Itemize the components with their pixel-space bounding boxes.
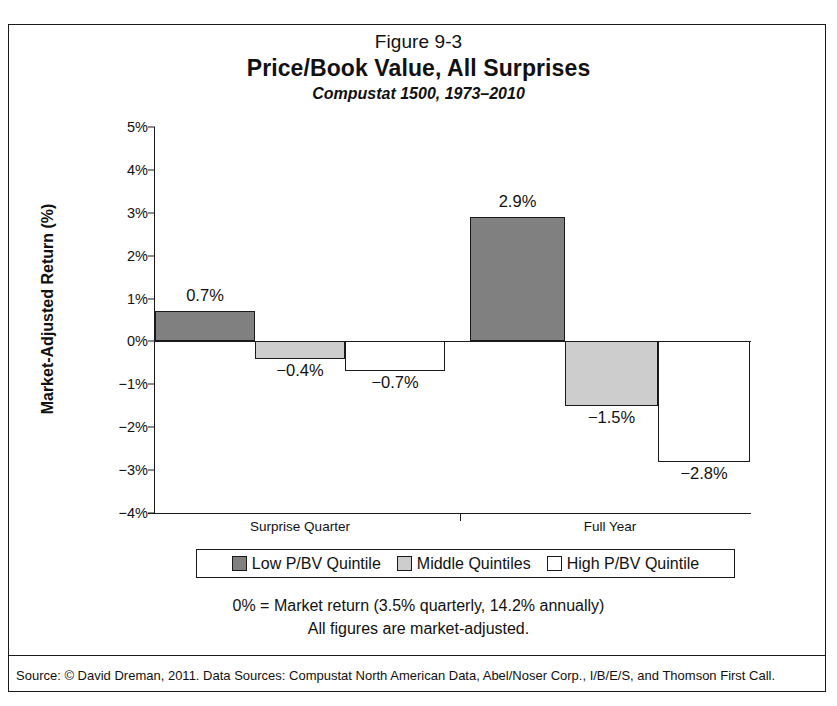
- y-tick-mark: [148, 427, 155, 428]
- y-tick-mark: [148, 384, 155, 385]
- y-tick-mark: [148, 470, 155, 471]
- y-tick-label: 0%: [127, 333, 148, 349]
- y-tick-label: 3%: [127, 205, 148, 221]
- bar-value-label: −0.7%: [371, 373, 418, 392]
- bar: [565, 341, 658, 405]
- x-axis-line: [148, 513, 751, 514]
- figure-title: Price/Book Value, All Surprises: [0, 55, 837, 82]
- y-tick-label: −1%: [119, 376, 148, 392]
- y-tick-label: 5%: [127, 119, 148, 135]
- bar-value-label: −0.4%: [276, 361, 323, 380]
- y-tick-mark: [148, 255, 155, 256]
- source-note: Source: © David Dreman, 2011. Data Sourc…: [16, 668, 821, 683]
- plot-area: 5%4%3%2%1%0%−1%−2%−3%−4% 0.7%−0.4%−0.7%2…: [155, 127, 750, 513]
- bar-value-label: 2.9%: [499, 192, 537, 211]
- figure-number: Figure 9-3: [0, 31, 837, 53]
- source-divider: [8, 655, 826, 656]
- legend-swatch: [547, 556, 562, 571]
- y-tick-mark: [148, 298, 155, 299]
- y-tick-label: 2%: [127, 248, 148, 264]
- bar: [470, 217, 565, 341]
- bar: [255, 341, 345, 358]
- legend-item: High P/BV Quintile: [547, 555, 700, 573]
- bar: [658, 341, 750, 461]
- y-tick-mark: [148, 212, 155, 213]
- bar-value-label: −2.8%: [680, 464, 727, 483]
- bar-value-label: −1.5%: [588, 408, 635, 427]
- y-tick-label: −3%: [119, 462, 148, 478]
- y-tick-label: −2%: [119, 419, 148, 435]
- y-tick-mark: [148, 127, 155, 128]
- bar-value-label: 0.7%: [186, 286, 224, 305]
- legend-swatch: [397, 556, 412, 571]
- bar: [155, 311, 255, 341]
- y-tick-mark: [148, 341, 155, 342]
- y-axis-title: Market-Adjusted Return (%): [39, 169, 57, 449]
- legend-label: Middle Quintiles: [417, 555, 531, 573]
- legend-swatch: [232, 556, 247, 571]
- chart-legend: Low P/BV QuintileMiddle QuintilesHigh P/…: [196, 549, 735, 578]
- x-category-label: Surprise Quarter: [250, 519, 350, 534]
- legend-label: High P/BV Quintile: [567, 555, 700, 573]
- y-tick-label: 4%: [127, 162, 148, 178]
- y-tick-mark: [148, 169, 155, 170]
- y-tick-label: −4%: [119, 505, 148, 521]
- y-tick-label: 1%: [127, 291, 148, 307]
- y-tick-mark: [148, 513, 155, 514]
- category-separator-tick: [460, 513, 461, 521]
- legend-item: Low P/BV Quintile: [232, 555, 381, 573]
- bar: [345, 341, 445, 371]
- x-category-label: Full Year: [584, 519, 637, 534]
- legend-item: Middle Quintiles: [397, 555, 531, 573]
- note-market-return: 0% = Market return (3.5% quarterly, 14.2…: [0, 597, 837, 615]
- figure-page: Figure 9-3 Price/Book Value, All Surpris…: [0, 0, 837, 706]
- note-market-adjusted: All figures are market-adjusted.: [0, 620, 837, 638]
- legend-label: Low P/BV Quintile: [252, 555, 381, 573]
- figure-subtitle: Compustat 1500, 1973–2010: [0, 85, 837, 103]
